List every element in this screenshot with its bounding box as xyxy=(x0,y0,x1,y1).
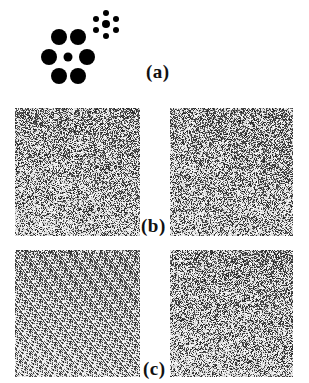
panel-b-noise-right xyxy=(170,108,293,236)
figure: (a) (b) (c) xyxy=(0,0,309,383)
small-cluster-petal-dot xyxy=(93,16,99,22)
large-cluster-petal-dot xyxy=(41,49,57,65)
small-cluster-petal-dot xyxy=(103,33,109,39)
panel-c-noise-left xyxy=(15,250,140,377)
small-cluster-petal-dot xyxy=(103,10,109,16)
panel-c-label: (c) xyxy=(143,359,166,378)
panel-b-noise-left xyxy=(15,108,140,236)
small-cluster-petal-dot xyxy=(113,27,119,33)
panel-b-label: (b) xyxy=(141,216,166,235)
small-cluster-petal-dot xyxy=(113,16,119,22)
panel-c-noise-right xyxy=(170,250,293,377)
large-cluster-petal-dot xyxy=(51,68,67,84)
panel-a-dot-clusters xyxy=(0,0,309,100)
large-cluster-petal-dot xyxy=(70,29,86,45)
panel-a-label: (a) xyxy=(146,62,170,81)
large-cluster-petal-dot xyxy=(79,49,95,65)
small-cluster-center-dot xyxy=(102,20,110,28)
small-cluster-petal-dot xyxy=(93,27,99,33)
large-cluster-center-dot xyxy=(64,53,73,62)
large-cluster-petal-dot xyxy=(70,68,86,84)
large-cluster-petal-dot xyxy=(51,29,67,45)
